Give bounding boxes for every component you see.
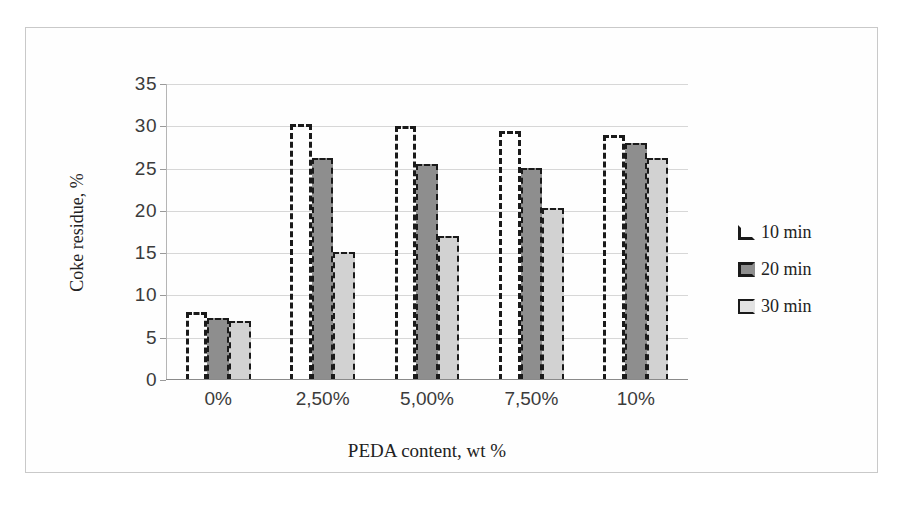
legend-item[interactable]: 20 min xyxy=(738,251,868,288)
legend-label: 10 min xyxy=(761,222,812,243)
bar xyxy=(416,164,438,380)
bar xyxy=(625,143,647,380)
y-axis-tick-label: 15 xyxy=(135,242,157,264)
y-axis-tick-labels: 05101520253035 xyxy=(121,84,157,380)
y-axis-line xyxy=(166,84,167,380)
bar xyxy=(186,312,208,380)
x-axis-tick-label: 10% xyxy=(617,388,655,410)
bar xyxy=(229,321,251,380)
y-axis-tick-mark xyxy=(160,380,166,381)
x-axis-tick-label: 7,50% xyxy=(504,388,558,410)
plot-inner xyxy=(166,84,688,380)
y-axis-tick-label: 5 xyxy=(146,327,157,349)
bar xyxy=(438,236,460,380)
legend-label: 20 min xyxy=(761,259,812,280)
chart-frame: Coke residue, % 05101520253035 0%2,50%5,… xyxy=(25,27,878,473)
y-axis-tick-label: 20 xyxy=(135,200,157,222)
bar xyxy=(521,168,543,380)
bar xyxy=(647,158,669,380)
bar xyxy=(333,252,355,380)
x-axis-tick-labels: 0%2,50%5,00%7,50%10% xyxy=(166,388,688,420)
y-axis-tick-label: 25 xyxy=(135,158,157,180)
bar xyxy=(542,208,564,380)
bar xyxy=(207,318,229,380)
y-axis-tick-label: 30 xyxy=(135,115,157,137)
legend-item[interactable]: 30 min xyxy=(738,288,868,325)
bar-group xyxy=(603,84,668,380)
bar xyxy=(312,158,334,380)
bar xyxy=(603,135,625,380)
x-axis-tick-label: 5,00% xyxy=(400,388,454,410)
bar-group xyxy=(395,84,460,380)
chart-legend: 10 min20 min30 min xyxy=(738,214,868,325)
plot-area xyxy=(166,84,688,380)
y-axis-title-text: Coke residue, % xyxy=(67,173,88,291)
bar-group xyxy=(499,84,564,380)
bar xyxy=(395,126,417,380)
legend-label: 30 min xyxy=(761,296,812,317)
legend-swatch-icon xyxy=(738,225,755,240)
x-axis-tick-label: 2,50% xyxy=(296,388,350,410)
legend-swatch-icon xyxy=(738,299,755,314)
bar xyxy=(290,124,312,380)
x-axis-tick-label: 0% xyxy=(204,388,231,410)
y-axis-title: Coke residue, % xyxy=(64,84,90,380)
y-axis-tick-label: 0 xyxy=(146,369,157,391)
bar-group xyxy=(290,84,355,380)
y-axis-tick-label: 35 xyxy=(135,73,157,95)
y-axis-tick-label: 10 xyxy=(135,284,157,306)
legend-swatch-icon xyxy=(738,262,755,277)
bar-group xyxy=(186,84,251,380)
x-axis-title: PEDA content, wt % xyxy=(166,440,688,462)
bar xyxy=(499,131,521,380)
legend-item[interactable]: 10 min xyxy=(738,214,868,251)
x-axis-line xyxy=(166,379,688,380)
